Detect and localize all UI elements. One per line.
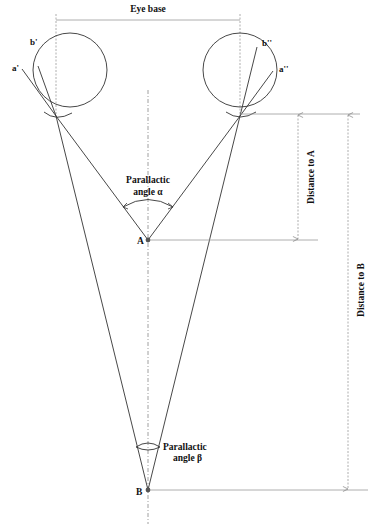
parallactic-angle-alpha-label-1: Parallactic <box>126 175 170 185</box>
distance-b-label: Distance to B <box>356 262 366 316</box>
point-a-label: A <box>137 236 144 246</box>
parallactic-angle-beta-label-1: Parallactic <box>163 442 207 452</box>
point-a-marker <box>146 238 151 243</box>
left-eye-a-label: a' <box>12 63 19 73</box>
point-b-label: B <box>136 487 143 497</box>
left-eye-b-label: b' <box>30 37 38 47</box>
eye-base-label: Eye base <box>130 4 166 14</box>
parallactic-angle-beta-label-2: angle β <box>173 453 202 463</box>
point-b-marker <box>146 488 151 493</box>
parallactic-angle-alpha-label-2: angle α <box>133 187 163 197</box>
distance-a-label: Distance to A <box>306 150 316 204</box>
right-eye-a-label: a'' <box>279 64 289 74</box>
distance-guides <box>150 114 368 490</box>
parallax-diagram: Eye base b' a' b'' a'' Parallactic angle… <box>0 0 379 524</box>
right-eye-b-label: b'' <box>262 38 272 48</box>
